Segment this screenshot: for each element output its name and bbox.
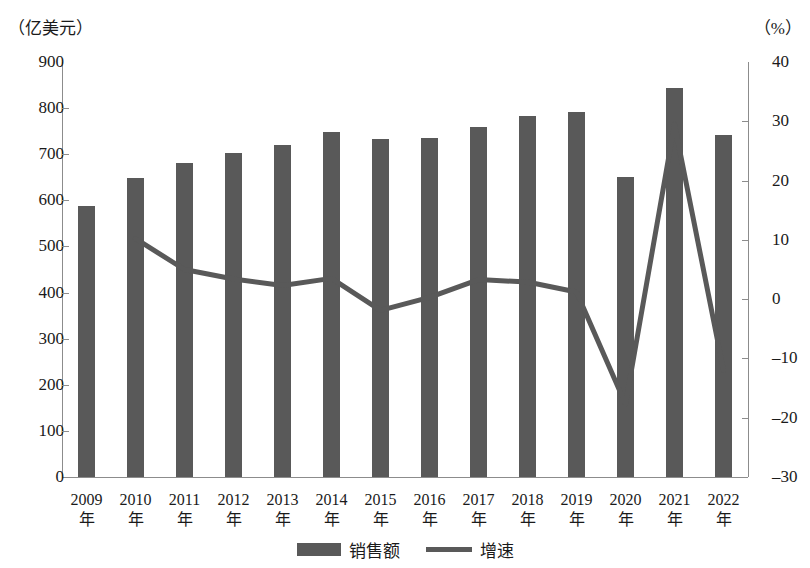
chart-container: （亿美元） （%） 0100200300400500600700800900–3… [0,0,810,568]
legend-item-sales: 销售额 [297,537,400,562]
growth-rate-polyline [136,124,724,404]
legend-label-growth: 增速 [480,537,514,562]
legend-bar-swatch-icon [297,543,341,556]
growth-rate-line-series [0,0,810,568]
chart-legend: 销售额 增速 [0,537,810,562]
legend-item-growth: 增速 [426,537,514,562]
legend-label-sales: 销售额 [349,537,400,562]
legend-line-swatch-icon [426,547,472,552]
